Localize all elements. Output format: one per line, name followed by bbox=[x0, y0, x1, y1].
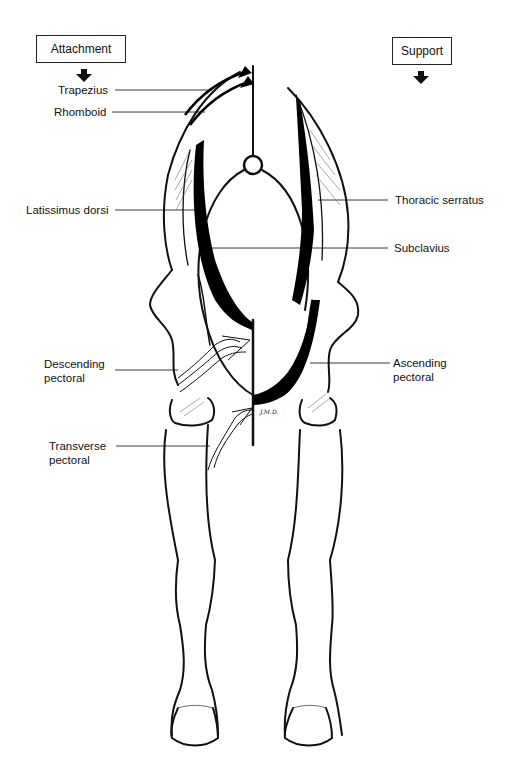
left-leg-inner bbox=[205, 425, 218, 735]
label-ascending-pectoral-line1: Ascending bbox=[393, 356, 447, 370]
right-hoof bbox=[285, 708, 332, 746]
rhomboid-arrowhead-icon bbox=[240, 76, 254, 88]
label-rhomboid: Rhomboid bbox=[54, 105, 106, 119]
artist-signature: J.M.D. bbox=[260, 408, 278, 415]
right-coronet bbox=[293, 705, 326, 708]
label-thoracic-serratus: Thoracic serratus bbox=[395, 193, 484, 207]
spine-vertebra bbox=[244, 156, 262, 174]
leader-lines bbox=[112, 90, 390, 446]
trapezius-arrow bbox=[185, 72, 245, 115]
right-leg-inner bbox=[285, 430, 300, 735]
ascending-pectoral-muscle bbox=[253, 300, 320, 405]
rhomboid-arrow bbox=[190, 82, 248, 125]
transverse-pectoral-arrow bbox=[208, 408, 252, 470]
left-leg-outer bbox=[164, 430, 184, 735]
right-humerus-outer bbox=[328, 282, 358, 392]
left-coronet bbox=[178, 705, 213, 708]
label-subclavius: Subclavius bbox=[394, 241, 450, 255]
right-leg-outer bbox=[330, 430, 342, 735]
label-latissimus-dorsi: Latissimus dorsi bbox=[26, 203, 108, 217]
support-down-arrow-icon bbox=[413, 71, 429, 84]
left-scapula-inner bbox=[183, 150, 190, 265]
right-scapula-outer bbox=[288, 88, 348, 282]
right-carpus bbox=[300, 398, 337, 426]
label-transverse-pectoral-line1: Transverse bbox=[49, 439, 106, 453]
rib-left bbox=[198, 170, 253, 395]
left-carpus bbox=[170, 398, 214, 426]
left-humerus-outer bbox=[150, 270, 178, 385]
label-trapezius: Trapezius bbox=[58, 83, 108, 97]
subclavius-muscle bbox=[194, 140, 252, 330]
attachment-down-arrow-icon bbox=[76, 69, 92, 82]
thoracic-serratus-muscle bbox=[292, 98, 314, 305]
label-transverse-pectoral-line2: pectoral bbox=[49, 453, 90, 467]
left-hoof bbox=[171, 708, 218, 746]
label-ascending-pectoral-line2: pectoral bbox=[393, 370, 434, 384]
label-descending-pectoral-line2: pectoral bbox=[44, 371, 85, 385]
label-descending-pectoral-line1: Descending bbox=[44, 357, 105, 371]
